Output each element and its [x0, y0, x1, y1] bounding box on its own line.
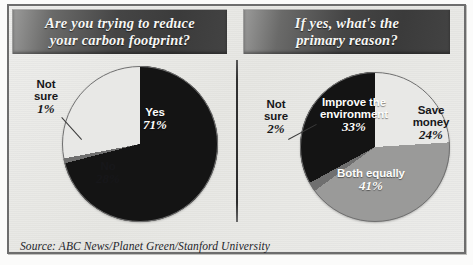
- slice-label-not-sure-left: Not sure 1%: [22, 78, 70, 115]
- slice-label-save-money-name1: Save: [404, 104, 458, 116]
- panel-title-left-line1: Are you trying to reduce: [45, 15, 195, 31]
- source-attribution: Source: ABC News/Planet Green/Stanford U…: [20, 240, 270, 252]
- slice-label-no-value: 28%: [78, 173, 138, 185]
- slice-label-both-equally-value: 41%: [318, 180, 424, 192]
- pie-chart-carbon-footprint: [62, 66, 218, 222]
- pie-chart-primary-reason: [300, 72, 450, 222]
- slice-label-yes: Yes 71%: [125, 106, 185, 131]
- panel-title-bar-right: If yes, what's the primary reason?: [243, 9, 450, 54]
- infographic-root: Are you trying to reduce your carbon foo…: [0, 0, 473, 265]
- slice-label-no: No 28%: [78, 160, 138, 185]
- panel-title-left-line2: your carbon footprint?: [50, 32, 191, 48]
- slice-label-improve-environment-value: 33%: [307, 121, 401, 133]
- slice-label-not-sure-left-value: 1%: [22, 103, 70, 115]
- panel-title-left: Are you trying to reduce your carbon foo…: [39, 15, 201, 49]
- slice-label-not-sure-right-name1: Not: [252, 98, 300, 110]
- panel-title-right: If yes, what's the primary reason?: [289, 15, 405, 49]
- slice-label-save-money-value: 24%: [404, 129, 458, 141]
- panel-title-bar-left: Are you trying to reduce your carbon foo…: [12, 9, 227, 54]
- slice-label-yes-value: 71%: [125, 119, 185, 131]
- slice-label-not-sure-right: Not sure 2%: [252, 98, 300, 135]
- panel-title-right-line2: primary reason?: [296, 32, 398, 48]
- slice-label-improve-environment-name1: Improve the: [307, 96, 401, 108]
- slice-label-both-equally: Both equally 41%: [318, 167, 424, 192]
- slice-label-not-sure-left-name1: Not: [22, 78, 70, 90]
- panel-title-right-line1: If yes, what's the: [295, 15, 399, 31]
- slice-label-not-sure-right-value: 2%: [252, 123, 300, 135]
- slice-label-save-money: Save money 24%: [404, 104, 458, 141]
- slice-label-improve-environment: Improve the environment 33%: [307, 96, 401, 133]
- panel-divider: [236, 60, 238, 222]
